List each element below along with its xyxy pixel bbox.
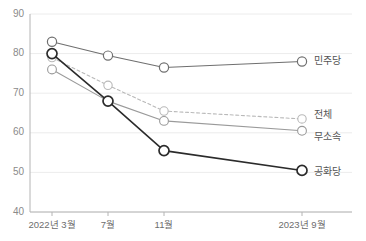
y-axis-tick-labels: 405060708090 — [13, 8, 25, 217]
series-label-공화당: 공화당 — [314, 166, 341, 177]
data-point-marker — [47, 37, 56, 46]
data-point-marker — [103, 96, 113, 106]
y-tick-label: 60 — [13, 126, 25, 137]
series-line — [52, 42, 302, 68]
data-point-marker — [160, 117, 169, 126]
series-labels: 민주당전체무소속공화당 — [314, 55, 341, 177]
data-point-marker — [103, 51, 112, 60]
data-point-marker — [159, 146, 169, 156]
y-tick-label: 40 — [13, 206, 25, 217]
chart-canvas: 405060708090 2022년 3월7월11월2023년 9월 민주당전체… — [0, 0, 366, 241]
x-tick-label: 2023년 9월 — [278, 219, 325, 230]
x-axis-tick-labels: 2022년 3월7월11월2023년 9월 — [28, 219, 325, 230]
data-point-marker — [48, 65, 57, 74]
data-point-marker — [298, 126, 307, 135]
data-point-marker — [298, 115, 306, 123]
y-tick-label: 70 — [13, 87, 25, 98]
data-point-marker — [104, 81, 112, 89]
series-label-전체: 전체 — [314, 109, 332, 120]
y-tick-label: 50 — [13, 166, 25, 177]
x-tick-label: 7월 — [101, 219, 115, 230]
data-point-marker — [297, 165, 307, 175]
y-tick-label: 80 — [13, 47, 25, 58]
series-line — [52, 69, 302, 130]
data-point-marker — [47, 49, 57, 59]
x-tick-label: 11월 — [155, 219, 174, 230]
x-tick-label: 2022년 3월 — [28, 219, 75, 230]
data-series — [47, 37, 307, 175]
data-point-marker — [159, 63, 168, 72]
data-point-marker — [297, 57, 306, 66]
series-민주당 — [47, 37, 306, 72]
series-전체 — [48, 53, 306, 123]
data-point-marker — [160, 107, 168, 115]
y-tick-label: 90 — [13, 8, 25, 19]
x-axis-ticks — [52, 212, 302, 216]
line-chart: 405060708090 2022년 3월7월11월2023년 9월 민주당전체… — [0, 0, 366, 241]
series-label-민주당: 민주당 — [314, 55, 341, 66]
series-무소속 — [48, 65, 307, 135]
series-label-무소속: 무소속 — [314, 131, 341, 142]
